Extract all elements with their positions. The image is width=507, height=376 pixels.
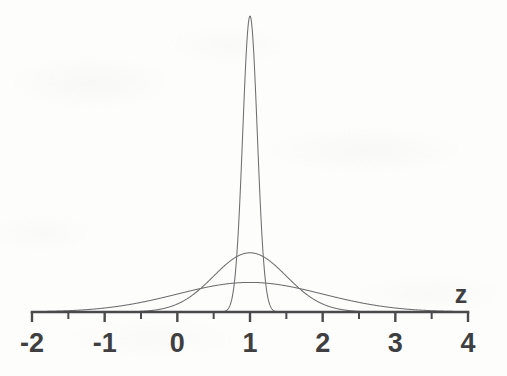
x-axis-tick-label: 4 xyxy=(460,328,475,358)
x-axis-ticks xyxy=(32,312,468,322)
x-axis-tick-label: 0 xyxy=(170,328,185,358)
curve-narrow xyxy=(32,16,468,312)
normal-distribution-figure: -2-101234 z xyxy=(0,0,507,376)
x-axis-tick-label: 1 xyxy=(242,328,257,358)
x-axis-tick-label: -1 xyxy=(93,328,117,358)
x-axis-tick-label: 3 xyxy=(388,328,403,358)
curves-group xyxy=(32,16,468,312)
x-axis: -2-101234 xyxy=(20,312,476,358)
x-axis-tick-label: 2 xyxy=(315,328,330,358)
plot-area: -2-101234 z xyxy=(0,0,507,376)
x-axis-name-label: z xyxy=(455,280,468,308)
curve-broad xyxy=(32,282,468,311)
x-axis-tick-label: -2 xyxy=(20,328,44,358)
x-axis-tick-labels: -2-101234 xyxy=(20,328,476,358)
